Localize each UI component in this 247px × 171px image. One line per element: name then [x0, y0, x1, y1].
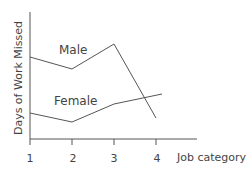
x-axis-label: Job category [176, 151, 247, 164]
axes [30, 12, 197, 145]
tick-labels: 1 2 3 4 [27, 152, 161, 165]
line-chart: 1 2 3 4 Job category Days of Work Missed… [0, 0, 247, 171]
female-series-label: Female [54, 94, 97, 108]
male-series-label: Male [59, 43, 87, 57]
x-tick-label-1: 1 [27, 152, 34, 165]
series-lines [30, 44, 162, 122]
x-tick-label-4: 4 [154, 152, 161, 165]
y-axis-label: Days of Work Missed [12, 21, 25, 135]
x-tick-label-3: 3 [111, 152, 118, 165]
x-tick-label-2: 2 [70, 152, 77, 165]
